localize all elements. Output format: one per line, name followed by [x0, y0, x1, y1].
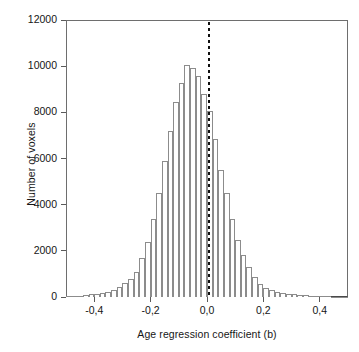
y-axis-tick-label: 6000: [1, 152, 57, 164]
x-axis-tick: [263, 297, 264, 302]
y-axis-tick: [61, 66, 66, 67]
x-axis-tick-label: 0,4: [297, 304, 343, 316]
x-axis-tick-label: -0,2: [128, 304, 174, 316]
x-axis-tick: [150, 297, 151, 302]
y-axis-tick: [61, 297, 66, 298]
x-axis-tick: [207, 297, 208, 302]
x-axis-tick: [94, 297, 95, 302]
y-axis-tick: [61, 204, 66, 205]
y-axis-tick: [61, 112, 66, 113]
y-axis-tick-label: 2000: [1, 244, 57, 256]
x-axis-title: Age regression coefficient (b): [66, 328, 348, 340]
x-axis-tick-label: 0,0: [184, 304, 230, 316]
y-axis-tick: [61, 250, 66, 251]
x-axis-tick-label: -0,4: [71, 304, 117, 316]
y-axis-tick-label: 12000: [1, 13, 57, 25]
histogram-figure: Number of voxels 02000400060008000100001…: [0, 0, 359, 352]
y-axis-title: Number of voxels: [25, 64, 37, 264]
y-axis-tick-label: 0: [1, 290, 57, 302]
y-axis-tick-label: 8000: [1, 105, 57, 117]
y-axis-tick-label: 4000: [1, 198, 57, 210]
x-axis-tick-label: 0,2: [240, 304, 286, 316]
y-axis-tick-label: 10000: [1, 59, 57, 71]
zero-reference-dotted-line: [208, 22, 210, 297]
plot-area: [66, 20, 348, 297]
y-axis-tick: [61, 158, 66, 159]
x-axis-tick: [319, 297, 320, 302]
y-axis-tick: [61, 20, 66, 21]
